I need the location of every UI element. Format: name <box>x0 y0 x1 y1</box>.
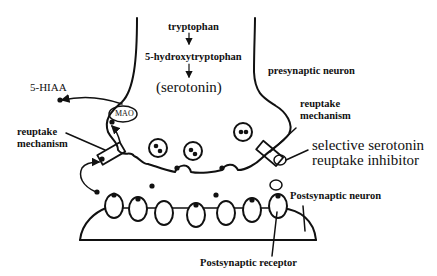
postsynaptic-neuron-label: Postsynaptic neuron <box>290 191 381 202</box>
reuptake-left-line1: reuptake <box>17 127 57 138</box>
serotonin-label: (serotonin) <box>156 80 222 95</box>
tryptophan-label: tryptophan <box>168 22 219 33</box>
reuptake-left-line2: mechanism <box>17 139 68 150</box>
hiaa-label: 5-HIAA <box>30 82 67 93</box>
hydroxytryptophan-label: 5-hydroxytryptophan <box>145 52 242 63</box>
ssri-label-line1: selective serotonin <box>312 138 424 153</box>
postsynaptic-receptor-label: Postsynaptic receptor <box>200 258 297 269</box>
mao-label: MAO <box>115 110 134 118</box>
reuptake-right-line1: reuptake <box>300 99 340 110</box>
ssri-label-line2: reuptake inhibitor <box>312 153 419 168</box>
postsynaptic-membrane <box>80 208 106 240</box>
reuptake-right-line2: mechanism <box>300 111 351 122</box>
presynaptic-neuron-label: presynaptic neuron <box>268 66 355 77</box>
presynaptic-membrane <box>107 18 291 173</box>
